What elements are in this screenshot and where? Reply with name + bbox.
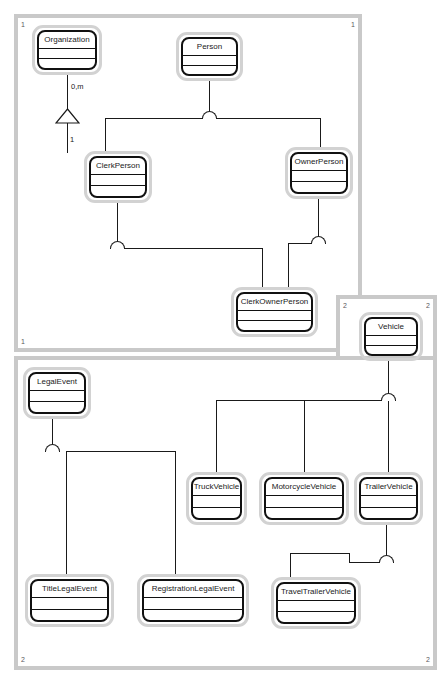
edge-vehicle-to-trailervehicle (388, 400, 389, 474)
edge-ownerperson-to-clerkowner (288, 243, 289, 290)
edge-trailervehicle-riser (349, 553, 350, 563)
edge-legalevent-to-registration (175, 451, 176, 576)
class-clerkperson-attributes (91, 175, 145, 186)
class-truckvehicle[interactable]: TruckVehicle (186, 472, 247, 525)
class-clerkownerperson-body: ClerkOwnerPerson (236, 292, 313, 332)
class-organization-body: Organization (37, 30, 97, 70)
edge-vehicle-down (388, 361, 389, 393)
class-person[interactable]: Person (176, 32, 243, 81)
class-truckvehicle-operations (193, 508, 240, 519)
class-traveltrailervehicle-body: TravelTrailerVehicle (276, 582, 356, 624)
frame-person-corner-top-left: 1 (21, 21, 25, 28)
class-traveltrailervehicle-name: TravelTrailerVehicle (278, 584, 354, 601)
generalization-arc-clerkperson (110, 241, 125, 249)
multiplicity-organization-clerkperson-target: 1 (70, 136, 74, 144)
class-registrationlegalevent-operations (144, 610, 242, 621)
class-clerkownerperson-name: ClerkOwnerPerson (238, 294, 311, 311)
class-legalevent[interactable]: LegalEvent (23, 367, 91, 419)
class-person-operations (183, 66, 236, 75)
class-motorcyclevehicle-name: MotorcycleVehicle (266, 479, 342, 496)
edge-vehicle-to-motorcyclevehicle (304, 400, 305, 474)
class-organization-operations (39, 59, 95, 68)
edge-person-to-ownerperson (320, 118, 321, 150)
class-traveltrailervehicle-attributes (278, 601, 354, 612)
class-clerkperson-operations (91, 186, 145, 196)
frame-events-corner-bottom-right: 2 (426, 656, 430, 663)
class-ownerperson[interactable]: OwnerPerson (285, 147, 353, 199)
class-motorcyclevehicle-operations (266, 508, 342, 519)
edge-vehicle-to-truckvehicle (216, 400, 217, 474)
class-vehicle-name: Vehicle (366, 319, 416, 336)
class-registrationlegalevent-name: RegistrationLegalEvent (144, 581, 242, 598)
class-trailervehicle-name: TrailerVehicle (361, 479, 416, 496)
edge-clerkperson-down (117, 203, 118, 241)
class-clerkownerperson[interactable]: ClerkOwnerPerson (231, 287, 318, 337)
frame-events-corner-bottom-left: 2 (21, 656, 25, 663)
class-registrationlegalevent-attributes (144, 598, 242, 610)
class-clerkperson[interactable]: ClerkPerson (84, 151, 152, 203)
edge-trailervehicle-down (386, 525, 387, 555)
generalization-arc-vehicle (381, 393, 396, 401)
class-clerkperson-body: ClerkPerson (89, 156, 147, 198)
class-trailervehicle-operations (361, 508, 416, 519)
class-person-body: Person (181, 37, 238, 76)
class-vehicle[interactable]: Vehicle (359, 312, 423, 361)
class-titlelegalevent-attributes (32, 598, 107, 610)
generalization-triangle-icon (55, 108, 80, 124)
class-titlelegalevent-name: TitleLegalEvent (32, 581, 107, 598)
edge-trailervehicle-to-travel (290, 553, 291, 579)
class-legalevent-attributes (30, 391, 84, 402)
class-ownerperson-operations (292, 182, 346, 192)
generalization-arc-person (202, 111, 217, 119)
class-person-name: Person (183, 39, 236, 56)
edge-vehicle-bus (216, 400, 389, 401)
class-motorcyclevehicle-attributes (266, 496, 342, 508)
frame-person-corner-bottom-left: 1 (21, 338, 25, 345)
class-organization-name: Organization (39, 32, 95, 49)
edge-legalevent-down (52, 419, 53, 444)
multiplicity-organization-clerkperson-source: 0,m (71, 83, 84, 91)
frame-person-corner-top-right: 1 (351, 21, 355, 28)
class-truckvehicle-name: TruckVehicle (193, 479, 240, 496)
class-organization[interactable]: Organization (32, 25, 102, 75)
class-titlelegalevent-operations (32, 610, 107, 621)
class-motorcyclevehicle-body: MotorcycleVehicle (264, 477, 344, 520)
class-legalevent-name: LegalEvent (30, 374, 84, 391)
generalization-arc-legalevent (45, 444, 60, 452)
class-trailervehicle[interactable]: TrailerVehicle (354, 472, 423, 525)
class-organization-attributes (39, 49, 95, 59)
class-ownerperson-attributes (292, 171, 346, 182)
class-legalevent-operations (30, 402, 84, 412)
class-trailervehicle-body: TrailerVehicle (359, 477, 418, 520)
class-registrationlegalevent[interactable]: RegistrationLegalEvent (137, 574, 249, 627)
edge-person-down (209, 81, 210, 111)
class-vehicle-operations (366, 346, 416, 355)
class-vehicle-attributes (366, 336, 416, 346)
class-titlelegalevent-body: TitleLegalEvent (30, 579, 109, 622)
class-truckvehicle-attributes (193, 496, 240, 508)
edge-clerkperson-to-clerkowner (262, 248, 263, 290)
class-motorcyclevehicle[interactable]: MotorcycleVehicle (259, 472, 349, 525)
class-clerkownerperson-attributes (238, 311, 311, 321)
class-legalevent-body: LegalEvent (28, 372, 86, 414)
edge-trailervehicle-bus-upper (290, 553, 350, 554)
class-traveltrailervehicle[interactable]: TravelTrailerVehicle (271, 577, 361, 629)
generalization-arc-ownerperson (311, 236, 326, 244)
class-truckvehicle-body: TruckVehicle (191, 477, 242, 520)
edge-clerkperson-bus (117, 248, 263, 249)
edge-legalevent-to-title (66, 451, 67, 576)
class-clerkperson-name: ClerkPerson (91, 158, 145, 175)
edge-organization-to-triangle (67, 75, 68, 110)
class-person-attributes (183, 56, 236, 66)
edge-ownerperson-down (318, 199, 319, 236)
edge-person-to-clerkperson (105, 118, 106, 154)
class-ownerperson-body: OwnerPerson (290, 152, 348, 194)
diagram-canvas: 1 1 1 1 2 2 2 2 (0, 0, 447, 691)
class-registrationlegalevent-body: RegistrationLegalEvent (142, 579, 244, 622)
frame-vehicle-corner-top-right: 2 (426, 302, 430, 309)
class-titlelegalevent[interactable]: TitleLegalEvent (25, 574, 114, 627)
class-trailervehicle-attributes (361, 496, 416, 508)
class-ownerperson-name: OwnerPerson (292, 154, 346, 171)
generalization-arc-trailervehicle (379, 555, 394, 563)
edge-triangle-to-clerkperson (67, 123, 68, 153)
